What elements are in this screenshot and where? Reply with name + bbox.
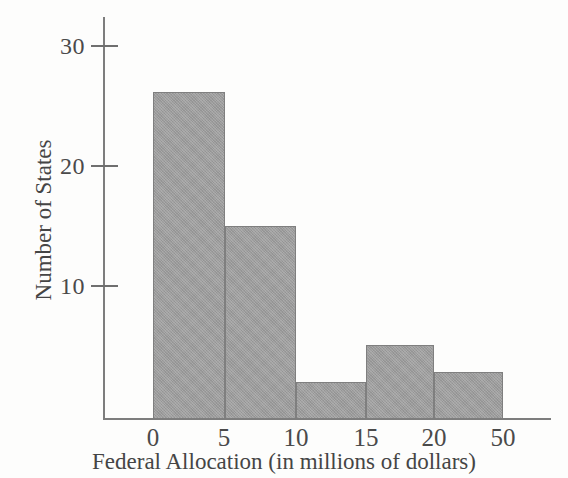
bar-15-20	[366, 345, 434, 420]
plot-area: 30 20 10 0 5 10 15 20 50	[0, 0, 568, 478]
x-tick-label-20: 20	[404, 424, 464, 452]
x-tick-label-5: 5	[194, 424, 254, 452]
bar-0-5	[153, 92, 225, 420]
x-tick-label-10: 10	[266, 424, 326, 452]
y-tick-label-30-wrap: 30	[0, 34, 85, 58]
bar-5-10	[225, 226, 296, 420]
y-axis-title: Number of States	[31, 70, 57, 370]
bar-20-50	[434, 372, 503, 420]
x-tick-label-0: 0	[123, 424, 183, 452]
y-tick-mark-30	[91, 45, 118, 47]
x-tick-label-15: 15	[336, 424, 396, 452]
y-tick-mark-10	[91, 285, 118, 287]
x-axis-title: Federal Allocation (in millions of dolla…	[0, 449, 568, 475]
y-tick-mark-20	[91, 165, 118, 167]
x-axis-line	[103, 418, 551, 420]
bar-10-15	[296, 382, 366, 420]
x-tick-label-50: 50	[473, 424, 533, 452]
y-tick-label-30: 30	[0, 34, 85, 58]
y-axis-line	[103, 17, 105, 420]
histogram-chart: 30 20 10 0 5 10 15 20 50 Federal Allocat…	[0, 0, 568, 478]
